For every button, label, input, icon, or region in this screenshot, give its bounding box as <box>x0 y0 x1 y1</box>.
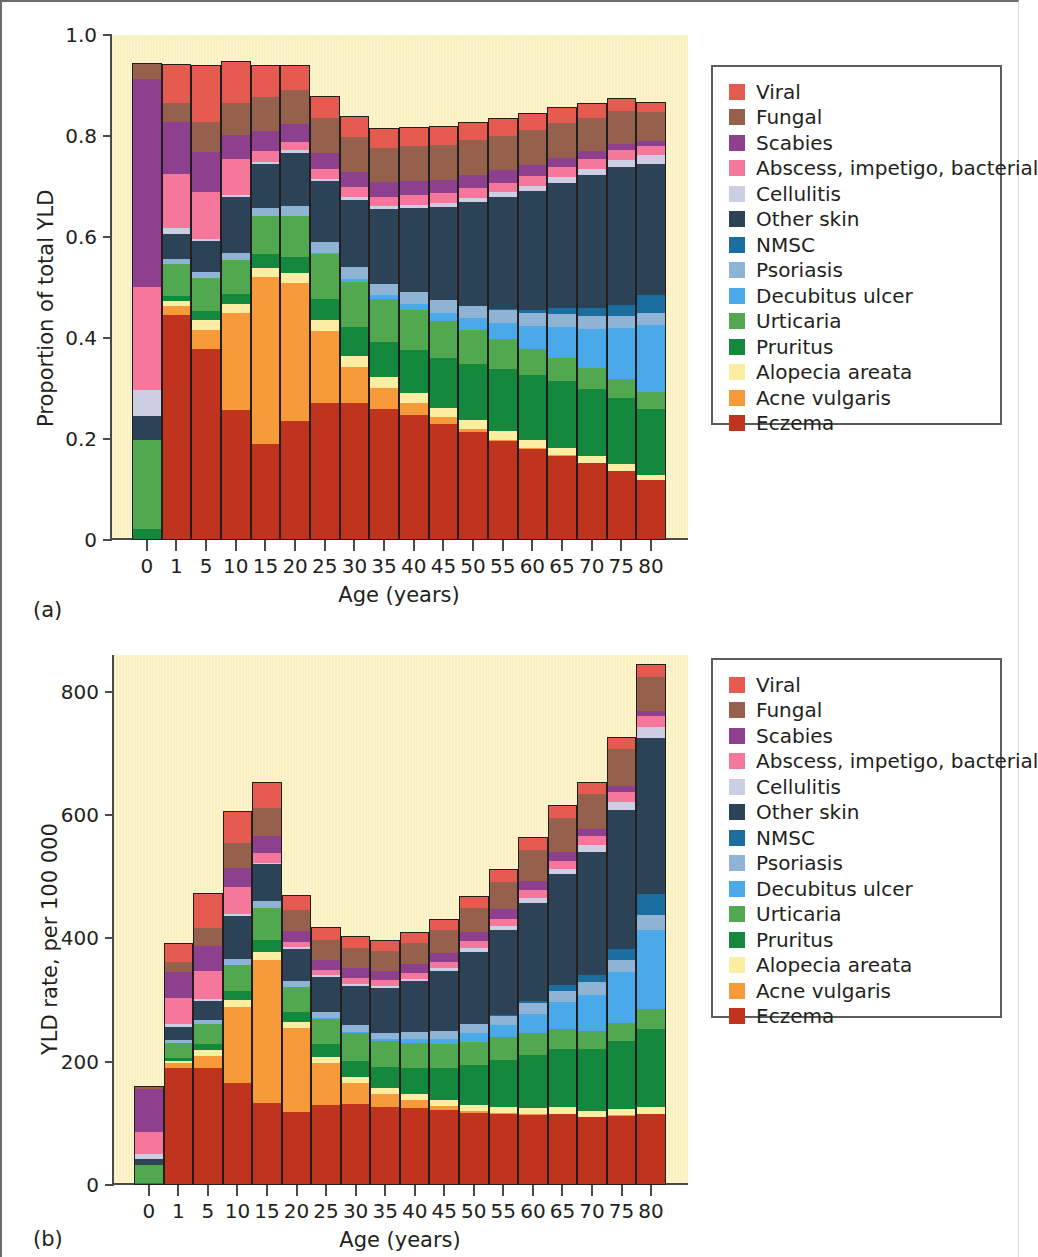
bar-stack[interactable] <box>370 940 400 1185</box>
bar-stack[interactable] <box>340 116 370 540</box>
bar-stack[interactable] <box>280 65 310 540</box>
bar-column[interactable] <box>636 35 666 540</box>
bar-stack[interactable] <box>251 65 281 540</box>
legend-item[interactable]: Other skin <box>729 207 986 233</box>
bar-column[interactable] <box>607 655 637 1185</box>
bar-stack[interactable] <box>221 61 251 540</box>
legend-item[interactable]: Fungal <box>729 698 986 724</box>
bar-column[interactable] <box>221 35 251 540</box>
legend-item[interactable]: Urticaria <box>729 902 986 928</box>
bar-stack[interactable] <box>489 869 519 1185</box>
bar-column[interactable] <box>162 35 192 540</box>
bar-stack[interactable] <box>400 932 430 1185</box>
bar-stack[interactable] <box>488 118 518 540</box>
bar-stack[interactable] <box>577 103 607 540</box>
bar-stack[interactable] <box>636 664 666 1185</box>
bar-stack[interactable] <box>369 128 399 540</box>
bar-column[interactable] <box>134 655 164 1185</box>
bar-column[interactable] <box>429 655 459 1185</box>
bar-column[interactable] <box>399 35 429 540</box>
bar-stack[interactable] <box>459 896 489 1185</box>
bar-column[interactable] <box>459 655 489 1185</box>
bar-stack[interactable] <box>458 122 488 540</box>
bar-column[interactable] <box>636 655 666 1185</box>
bar-stack[interactable] <box>547 107 577 540</box>
bar-column[interactable] <box>341 655 371 1185</box>
bar-column[interactable] <box>607 35 637 540</box>
bar-column[interactable] <box>191 35 221 540</box>
bar-stack[interactable] <box>518 837 548 1185</box>
bar-stack[interactable] <box>193 893 223 1185</box>
bar-stack[interactable] <box>429 919 459 1185</box>
bar-column[interactable] <box>518 35 548 540</box>
bar-column[interactable] <box>400 655 430 1185</box>
legend-item[interactable]: Eczema <box>729 1004 986 1030</box>
legend-item[interactable]: Abscess, impetigo, bacterial <box>729 749 986 775</box>
legend-item[interactable]: Eczema <box>729 411 986 437</box>
bar-column[interactable] <box>251 35 281 540</box>
bar-stack[interactable] <box>223 811 253 1185</box>
legend-item[interactable]: Acne vulgaris <box>729 385 986 411</box>
bar-column[interactable] <box>282 655 312 1185</box>
legend-item[interactable]: Alopecia areata <box>729 953 986 979</box>
legend-item[interactable]: Decubitus ulcer <box>729 283 986 309</box>
bar-stack[interactable] <box>311 927 341 1185</box>
bar-column[interactable] <box>488 35 518 540</box>
bar-stack[interactable] <box>518 113 548 540</box>
bar-column[interactable] <box>489 655 519 1185</box>
bar-stack[interactable] <box>399 127 429 540</box>
bar-stack[interactable] <box>134 1086 164 1185</box>
bar-stack[interactable] <box>636 102 666 540</box>
bar-column[interactable] <box>164 655 194 1185</box>
bar-column[interactable] <box>370 655 400 1185</box>
bar-column[interactable] <box>223 655 253 1185</box>
bar-column[interactable] <box>311 655 341 1185</box>
bar-column[interactable] <box>518 655 548 1185</box>
bar-stack[interactable] <box>310 96 340 540</box>
bar-column[interactable] <box>577 35 607 540</box>
bar-stack[interactable] <box>191 65 221 540</box>
bar-stack[interactable] <box>252 782 282 1185</box>
legend-item[interactable]: Pruritus <box>729 927 986 953</box>
legend-item[interactable]: Other skin <box>729 800 986 826</box>
bar-column[interactable] <box>577 655 607 1185</box>
bar-stack[interactable] <box>164 943 194 1185</box>
bar-stack[interactable] <box>341 936 371 1185</box>
legend-item[interactable]: Alopecia areata <box>729 360 986 386</box>
bar-stack[interactable] <box>429 126 459 540</box>
legend-item[interactable]: Pruritus <box>729 334 986 360</box>
bar-column[interactable] <box>369 35 399 540</box>
bar-stack[interactable] <box>282 895 312 1185</box>
legend-item[interactable]: Psoriasis <box>729 851 986 877</box>
bar-column[interactable] <box>280 35 310 540</box>
bar-column[interactable] <box>193 655 223 1185</box>
legend-item[interactable]: Scabies <box>729 130 986 156</box>
bar-column[interactable] <box>132 35 162 540</box>
bar-column[interactable] <box>458 35 488 540</box>
bar-column[interactable] <box>548 655 578 1185</box>
legend-item[interactable]: Viral <box>729 672 986 698</box>
legend-item[interactable]: Decubitus ulcer <box>729 876 986 902</box>
legend-item[interactable]: Cellulitis <box>729 181 986 207</box>
bar-stack[interactable] <box>607 737 637 1185</box>
legend-item[interactable]: Acne vulgaris <box>729 978 986 1004</box>
bar-stack[interactable] <box>607 98 637 540</box>
bar-column[interactable] <box>252 655 282 1185</box>
legend-item[interactable]: Fungal <box>729 105 986 131</box>
bar-stack[interactable] <box>132 63 162 540</box>
legend-item[interactable]: Cellulitis <box>729 774 986 800</box>
bar-column[interactable] <box>547 35 577 540</box>
legend-item[interactable]: Abscess, impetigo, bacterial <box>729 156 986 182</box>
bar-stack[interactable] <box>548 805 578 1185</box>
legend-item[interactable]: Psoriasis <box>729 258 986 284</box>
legend-item[interactable]: NMSC <box>729 232 986 258</box>
bar-column[interactable] <box>340 35 370 540</box>
bar-column[interactable] <box>310 35 340 540</box>
legend-item[interactable]: Viral <box>729 79 986 105</box>
bar-stack[interactable] <box>577 782 607 1185</box>
bar-stack[interactable] <box>162 64 192 540</box>
legend-item[interactable]: NMSC <box>729 825 986 851</box>
legend-item[interactable]: Urticaria <box>729 309 986 335</box>
bar-column[interactable] <box>429 35 459 540</box>
legend-item[interactable]: Scabies <box>729 723 986 749</box>
